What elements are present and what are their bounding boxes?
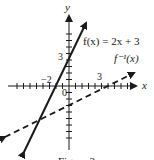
y-axis-label: y (64, 1, 70, 13)
y-axis (66, 16, 72, 150)
y-tick-label-3: 3 (58, 51, 63, 62)
x-tick-label-neg2: −2 (41, 74, 52, 85)
figure-caption: Figure 3 (58, 155, 95, 160)
function-graph: y x 0 −2 3 3 f(x) = 2x + 3 f⁻¹(x) Figure… (0, 0, 154, 160)
x-tick-label-3: 3 (97, 71, 102, 82)
f-label: f(x) = 2x + 3 (83, 35, 140, 48)
origin-label: 0 (62, 87, 67, 98)
x-axis (8, 83, 136, 89)
line-f (24, 23, 86, 152)
f-inverse-label: f⁻¹(x) (114, 52, 139, 65)
x-axis-label: x (141, 79, 147, 91)
